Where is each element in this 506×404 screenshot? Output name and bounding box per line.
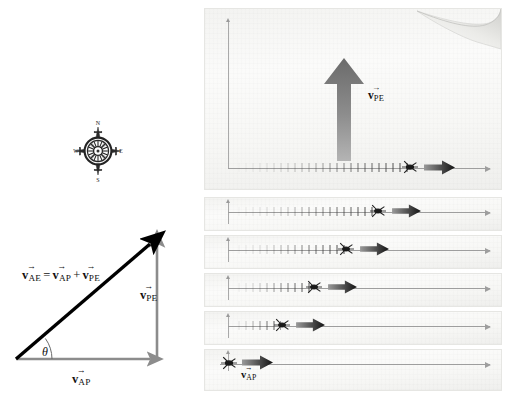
- velocity-arrow-4: [328, 280, 358, 294]
- page-curl-decoration: [417, 9, 501, 55]
- velocity-arrow-6: [242, 355, 274, 370]
- airplane-icon-6: [220, 355, 238, 371]
- panel-label-vap: →vAP: [241, 369, 257, 382]
- airplane-icon-2: [369, 203, 387, 219]
- motion-trail-4: [231, 283, 313, 292]
- frame-panel-4: [204, 273, 502, 307]
- vpe-subscript: PE: [89, 273, 100, 283]
- frame-panel-1: →vPE: [204, 8, 502, 190]
- airplane-icon-5: [273, 317, 291, 333]
- triangle-label-vap: →vAP: [72, 372, 90, 387]
- frame-panel-3: [204, 235, 502, 269]
- airplane-icon-1: [401, 159, 419, 175]
- compass-label-north: N: [96, 120, 101, 126]
- triangle-label-vpe: →vPE: [140, 288, 157, 303]
- velocity-arrow-2: [392, 204, 422, 218]
- triangle-vpe-subscript: PE: [146, 293, 157, 303]
- motion-trail-2: [231, 207, 377, 216]
- motion-trail-3: [231, 245, 345, 254]
- symbol-vap: →vAP: [52, 268, 71, 283]
- frame-panel-2: [204, 197, 502, 231]
- compass-rose: N S W E: [72, 118, 124, 184]
- triangle-vap-subscript: AP: [78, 377, 90, 387]
- equals-sign: =: [41, 268, 52, 282]
- vector-vae-line: [16, 244, 150, 359]
- vector-triangle-diagram: [0, 226, 196, 404]
- compass-label-south: S: [96, 177, 99, 183]
- equation-vae: →vAE=→vAP+→vPE: [22, 268, 100, 283]
- compass-label-east: E: [119, 148, 123, 154]
- symbol-vpe: →vPE: [82, 268, 100, 283]
- symbol-vae: →vAE: [22, 268, 41, 283]
- airplane-icon-4: [305, 279, 323, 295]
- angle-label-theta: θ: [42, 345, 48, 360]
- wind-velocity-arrow: [323, 57, 365, 161]
- panel-vap-subscript: AP: [246, 373, 256, 382]
- motion-trail-1: [231, 163, 409, 172]
- velocity-arrow-5: [296, 318, 326, 332]
- panel-vpe-subscript: PE: [374, 93, 384, 103]
- filmstrip-panels: →vPE: [196, 0, 506, 404]
- vertical-axis-3: [228, 240, 229, 262]
- plus-sign: +: [71, 268, 82, 282]
- airplane-icon-3: [337, 241, 355, 257]
- vertical-axis-4: [228, 278, 229, 300]
- panel-label-vpe: →vPE: [368, 89, 384, 103]
- vae-subscript: AE: [28, 273, 41, 283]
- vap-subscript: AP: [59, 273, 71, 283]
- vertical-axis-2: [228, 202, 229, 224]
- vertical-axis-5: [228, 316, 229, 338]
- left-column: N S W E →vAE=→vAP: [0, 0, 196, 404]
- velocity-arrow-3: [360, 242, 390, 256]
- frame-panel-5: [204, 311, 502, 345]
- compass-label-west: W: [73, 148, 79, 154]
- vertical-axis-1: [228, 21, 229, 169]
- velocity-arrow-1: [424, 160, 456, 175]
